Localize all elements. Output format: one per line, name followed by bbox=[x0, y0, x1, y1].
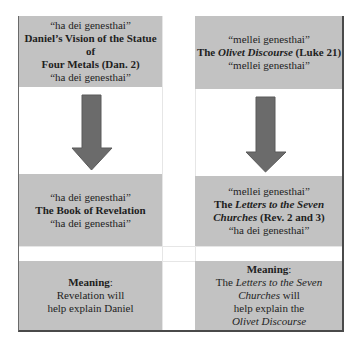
diagram-frame bbox=[18, 16, 344, 332]
